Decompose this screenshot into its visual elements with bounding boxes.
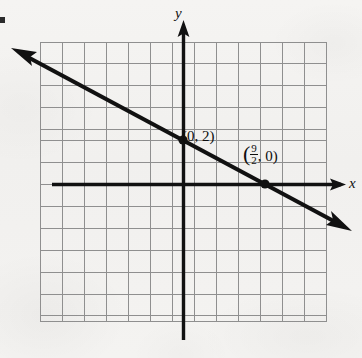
y-intercept-label: (0, 2) [182,129,215,144]
x-intercept-fraction: 9 2 [250,143,258,166]
line-arrowhead-left [11,48,37,66]
figure-canvas: y x (0, 2) ( 9 2 , 0) [0,0,362,358]
x-intercept-label: ( 9 2 , 0) [243,143,278,166]
fraction-numerator: 9 [250,143,258,154]
x-intercept-tail: , 0) [258,149,278,164]
x-axis-label: x [349,176,356,191]
x-axis [52,179,346,191]
y-axis-label: y [175,6,182,21]
y-axis [178,20,190,340]
coordinate-plane [0,0,362,358]
fraction-denominator: 2 [250,155,258,166]
point-x-intercept [260,179,269,188]
x-intercept-open-paren: ( [243,143,250,165]
